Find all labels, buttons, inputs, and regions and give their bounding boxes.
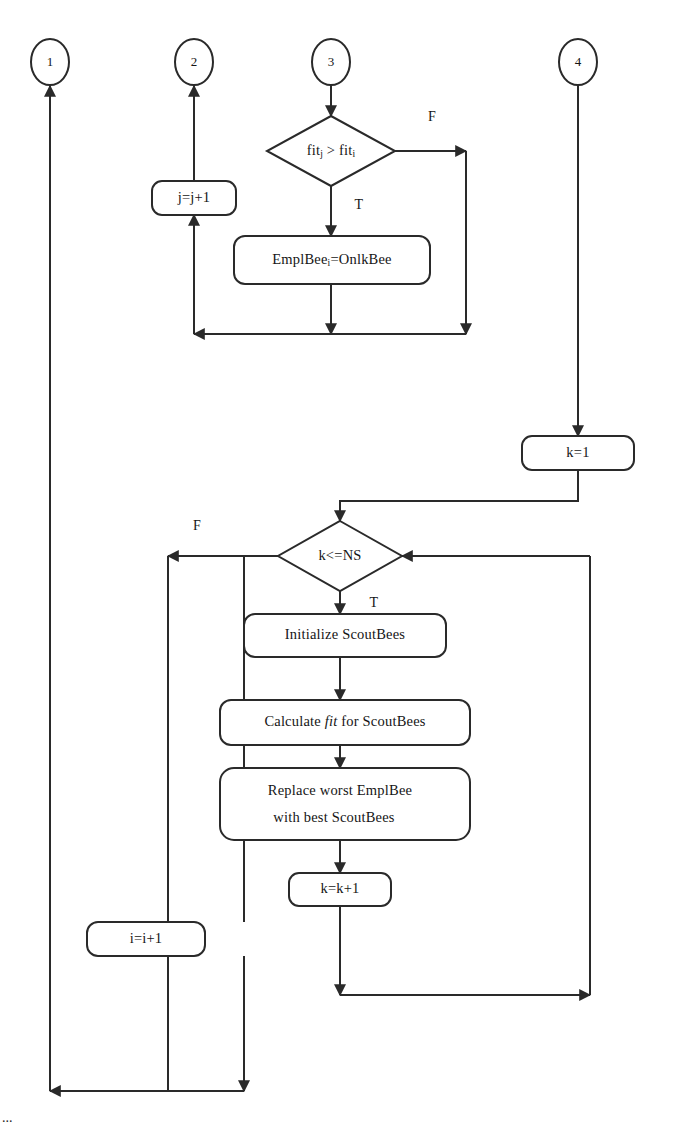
calc-fit-italic: fit bbox=[325, 713, 338, 729]
connector-label-1: 1 bbox=[47, 54, 54, 69]
decision-fit-label: fitj > fiti bbox=[307, 142, 356, 159]
branch-label-k-true: T bbox=[370, 595, 379, 610]
edge-k1-to-k-decision bbox=[340, 470, 578, 521]
connector-label-2: 2 bbox=[191, 54, 198, 69]
process-j-increment: j=j+1 bbox=[152, 181, 236, 215]
decision-fit-rhs-sub: i bbox=[353, 149, 356, 159]
process-assign-emplbee-label: EmplBeei=OnlkBee bbox=[272, 251, 392, 268]
decision-k-loop-label: k<=NS bbox=[318, 547, 361, 563]
connector-node-2: 2 bbox=[175, 39, 213, 85]
connector-node-4: 4 bbox=[559, 39, 597, 85]
process-j-increment-label: j=j+1 bbox=[177, 189, 211, 205]
emplbee-main: EmplBee bbox=[272, 251, 327, 267]
process-k-increment-label: k=k+1 bbox=[320, 880, 359, 896]
connector-node-3: 3 bbox=[312, 39, 350, 85]
connector-label-4: 4 bbox=[575, 54, 582, 69]
process-initialize-scoutbees-label: Initialize ScoutBees bbox=[285, 626, 406, 642]
process-replace-worst: Replace worst EmplBee with best ScoutBee… bbox=[220, 768, 470, 840]
branch-label-fit-false: F bbox=[428, 109, 436, 124]
decision-fit-rhs: fit bbox=[339, 142, 353, 158]
process-k-init-label: k=1 bbox=[566, 444, 589, 460]
branch-label-fit-true: T bbox=[355, 197, 364, 212]
process-calculate-fit: Calculate fit for ScoutBees bbox=[220, 700, 470, 745]
connector-label-3: 3 bbox=[328, 54, 335, 69]
decision-fit-comparison: fitj > fiti bbox=[267, 116, 395, 186]
figure-caption: ... bbox=[0, 1107, 679, 1127]
calc-fit-post: for ScoutBees bbox=[337, 713, 425, 729]
process-replace-worst-line1: Replace worst EmplBee bbox=[268, 782, 412, 798]
flowchart-canvas: 1 2 3 4 bbox=[0, 0, 679, 1127]
branch-label-k-false: F bbox=[193, 518, 201, 533]
process-assign-emplbee: EmplBeei=OnlkBee bbox=[234, 236, 430, 284]
emplbee-tail: =OnlkBee bbox=[330, 251, 391, 267]
process-k-init: k=1 bbox=[522, 436, 634, 470]
process-k-increment: k=k+1 bbox=[289, 873, 391, 906]
connector-node-1: 1 bbox=[31, 39, 69, 85]
decision-fit-lhs: fit bbox=[307, 142, 321, 158]
decision-fit-operator: > bbox=[323, 142, 339, 158]
process-calculate-fit-label: Calculate fit for ScoutBees bbox=[264, 713, 425, 729]
process-i-increment-label: i=i+1 bbox=[130, 930, 163, 946]
calc-fit-pre: Calculate bbox=[264, 713, 324, 729]
flowchart-svg: 1 2 3 4 bbox=[0, 0, 679, 1127]
process-box-replace-worst bbox=[220, 768, 470, 840]
decision-k-loop: k<=NS bbox=[278, 521, 402, 591]
process-i-increment: i=i+1 bbox=[87, 922, 205, 956]
process-replace-worst-line2: with best ScoutBees bbox=[273, 809, 395, 825]
process-initialize-scoutbees: Initialize ScoutBees bbox=[244, 614, 446, 657]
